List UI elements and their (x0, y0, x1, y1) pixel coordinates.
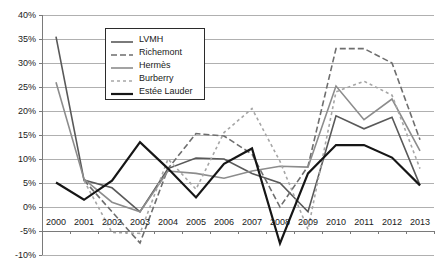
series-line-herm-s (56, 82, 420, 212)
chart-legend: LVMHRichemontHermèsBurberryEstée Lauder (105, 28, 205, 100)
x-axis-tick-label: 2013 (406, 217, 434, 227)
legend-item: Hermès (111, 59, 198, 72)
legend-swatch-icon (111, 86, 133, 98)
legend-label: Burberry (139, 73, 174, 84)
x-axis-tick-label: 2011 (350, 217, 378, 227)
legend-label: Estée Lauder (139, 86, 193, 97)
legend-item: Estée Lauder (111, 85, 198, 98)
chart-plot-area (0, 0, 442, 279)
legend-swatch-icon (111, 73, 133, 85)
x-axis-tick-label: 2000 (42, 217, 70, 227)
x-axis-tick-label: 2008 (266, 217, 294, 227)
y-axis-tick-label: 30% (0, 58, 36, 68)
y-axis-tick-label: 0% (0, 202, 36, 212)
y-axis-tick-label: 10% (0, 154, 36, 164)
y-axis-tick-label: 20% (0, 106, 36, 116)
y-axis-tick-label: -5% (0, 226, 36, 236)
y-axis-tick-label: 40% (0, 10, 36, 20)
legend-item: LVMH (111, 33, 198, 46)
x-axis-tick-label: 2006 (210, 217, 238, 227)
legend-swatch-icon (111, 47, 133, 59)
legend-item: Richemont (111, 46, 198, 59)
x-axis-tick-label: 2002 (98, 217, 126, 227)
legend-label: Richemont (139, 47, 182, 58)
y-axis-tick-label: 35% (0, 34, 36, 44)
y-axis-tick-label: 25% (0, 82, 36, 92)
x-axis-tick-label: 2012 (378, 217, 406, 227)
x-axis-tick-label: 2009 (294, 217, 322, 227)
x-axis-tick-label: 2003 (126, 217, 154, 227)
x-axis-tick-label: 2001 (70, 217, 98, 227)
chart-container: 40%35%30%25%20%15%10%5%0%-5%-10% 2000200… (0, 0, 442, 279)
y-axis-tick-label: 15% (0, 130, 36, 140)
x-axis-tick-label: 2007 (238, 217, 266, 227)
y-axis-tick-label: -10% (0, 250, 36, 260)
legend-label: Hermès (139, 60, 171, 71)
legend-swatch-icon (111, 60, 133, 72)
x-axis-tick-label: 2004 (154, 217, 182, 227)
y-axis-tick-label: 5% (0, 178, 36, 188)
legend-swatch-icon (111, 34, 133, 46)
legend-item: Burberry (111, 72, 198, 85)
x-axis-tick-label: 2005 (182, 217, 210, 227)
x-axis-tick-label: 2010 (322, 217, 350, 227)
legend-label: LVMH (139, 34, 163, 45)
